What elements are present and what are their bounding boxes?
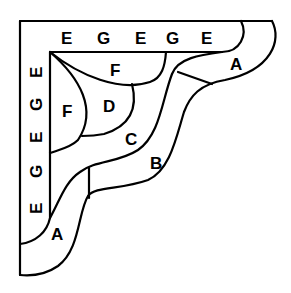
left-band-letter: E [27,67,46,78]
region-label-a-left: A [51,225,63,244]
a-right-top-curve [222,21,244,52]
region-label-f-left: F [62,102,72,121]
region-label-f-top: F [110,61,120,80]
region-label-b: B [150,154,162,173]
top-band-letter: E [201,29,212,48]
left-band-letter: G [27,165,46,178]
diagram-canvas: E G E G E E G E G E F F D C B A A [0,0,291,293]
top-band-letter: E [61,29,72,48]
region-label-c: C [125,130,137,149]
region-label-a-right: A [230,55,242,74]
left-band-letter: G [27,98,46,111]
top-band-letter: E [135,29,146,48]
region-label-d: D [103,97,115,116]
top-band-letter: G [97,29,110,48]
top-band-letter: G [166,29,179,48]
corner-bracket-diagram: E G E G E E G E G E F F D C B A A [0,0,291,293]
a-left-boundary-curve [20,218,50,244]
left-band-letter: E [27,132,46,143]
left-band-letter: E [27,203,46,214]
a-b-divider [178,72,212,84]
